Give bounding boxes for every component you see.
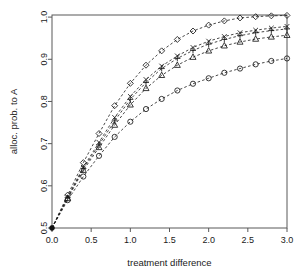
series-triangle-series <box>52 32 290 228</box>
series-line <box>52 58 287 228</box>
series-line <box>52 26 287 228</box>
x-axis-tick-label: 2.5 <box>242 235 255 245</box>
series-cross-series <box>52 24 289 228</box>
x-axis-tick-label: 1.0 <box>124 235 137 245</box>
circle-marker <box>81 174 86 179</box>
y-axis-tick-label: 0.5 <box>39 222 49 235</box>
circle-marker <box>96 153 101 158</box>
plus-marker <box>112 118 118 124</box>
y-axis-tick-label: 0.9 <box>39 53 49 66</box>
chart-container: 0.00.51.01.52.02.53.00.50.60.70.80.91.0t… <box>0 0 300 276</box>
diamond-marker <box>174 36 180 42</box>
series-line <box>52 29 287 228</box>
x-axis-tick-label: 0.5 <box>85 235 98 245</box>
y-axis-tick-label: 0.8 <box>39 95 49 108</box>
plus-marker <box>206 41 212 47</box>
series-line <box>52 35 287 228</box>
circle-marker <box>159 96 164 101</box>
y-axis-tick-label: 1.0 <box>39 11 49 24</box>
x-axis-tick-label: 0.0 <box>46 235 59 245</box>
plus-marker <box>174 55 180 61</box>
filled-circle-marker <box>50 226 55 231</box>
series-circle-series <box>52 56 290 228</box>
circle-marker <box>190 81 195 86</box>
triangle-marker <box>206 48 212 53</box>
y-axis-tick-label: 0.7 <box>39 137 49 150</box>
series-diamond-series <box>52 12 290 228</box>
circle-marker <box>128 119 133 124</box>
plot-frame <box>52 15 287 228</box>
circle-marker <box>143 106 148 111</box>
line-chart: 0.00.51.01.52.02.53.00.50.60.70.80.91.0t… <box>0 0 300 276</box>
y-axis-title: alloc. prob. to A <box>8 88 19 154</box>
triangle-marker <box>237 39 243 44</box>
x-axis-tick-label: 3.0 <box>281 235 294 245</box>
plus-marker <box>253 30 259 36</box>
series-layer <box>50 12 290 230</box>
series-plus-series <box>52 26 290 228</box>
axes-layer <box>48 15 287 232</box>
diamond-marker <box>112 103 118 109</box>
origin-point <box>50 226 55 231</box>
x-axis-tick-label: 2.0 <box>202 235 215 245</box>
y-axis-tick-label: 0.6 <box>39 180 49 193</box>
diamond-marker <box>206 22 212 28</box>
series-line <box>52 15 287 228</box>
triangle-marker <box>159 72 165 77</box>
x-axis-title: treatment difference <box>127 257 211 268</box>
triangle-marker <box>174 62 180 67</box>
x-axis-tick-label: 1.5 <box>163 235 176 245</box>
diamond-marker <box>96 131 102 137</box>
plus-marker <box>159 66 165 72</box>
circle-marker <box>222 70 227 75</box>
